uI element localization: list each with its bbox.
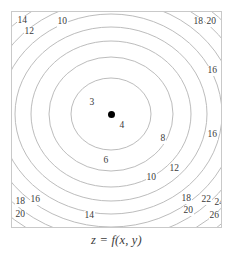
contour-label: 16 <box>207 66 218 76</box>
contour-label: 18 <box>181 194 192 204</box>
contour-label: 4 <box>119 121 125 131</box>
contour-label: 20 <box>206 17 217 27</box>
contour-label: 6 <box>103 156 109 166</box>
contour-plot-figure: 1410121820163481661210182224181620262014… <box>0 0 233 259</box>
contour-label: 18 <box>15 197 26 207</box>
contour-label: 10 <box>57 17 68 27</box>
contour-label: 12 <box>169 164 180 174</box>
contour-line <box>12 14 221 214</box>
contour-label: 14 <box>84 211 95 221</box>
figure-caption: z = f(x, y) <box>0 233 233 248</box>
contour-label: 20 <box>183 206 194 216</box>
contour-label: 18 <box>193 17 204 27</box>
contour-label: 16 <box>207 130 218 140</box>
contour-label: 3 <box>89 98 95 108</box>
contour-label: 26 <box>209 211 220 221</box>
minimum-point-marker <box>108 111 115 118</box>
plot-frame: 1410121820163481661210182224181620262014 <box>11 11 222 228</box>
contour-label: 20 <box>15 210 26 220</box>
contour-label: 12 <box>24 27 35 37</box>
contour-label: 10 <box>146 173 157 183</box>
contour-label: 16 <box>30 195 41 205</box>
contour-label: 14 <box>17 16 28 26</box>
contour-label: 22 <box>201 195 212 205</box>
contour-label: 8 <box>160 134 166 144</box>
contour-label: 24 <box>214 198 222 208</box>
